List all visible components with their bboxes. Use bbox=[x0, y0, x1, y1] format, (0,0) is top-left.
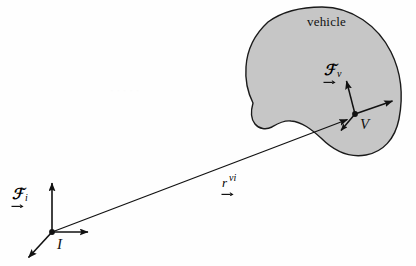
inertial-origin-dot bbox=[49, 229, 55, 235]
vehicle-caption: vehicle bbox=[307, 14, 346, 30]
inertial-origin-label: I bbox=[57, 236, 62, 253]
inertial-axis-down-left bbox=[29, 232, 53, 258]
position-vector-symbol: r vi bbox=[222, 174, 234, 195]
position-vector-r-vi bbox=[52, 120, 348, 233]
vehicle-frame-symbol: ℱ v bbox=[324, 62, 340, 83]
script-f-glyph: ℱ bbox=[12, 186, 24, 202]
under-arrow-icon bbox=[11, 202, 24, 208]
frame-symbol-core: ℱ bbox=[324, 62, 336, 83]
r-symbol-core: r bbox=[222, 174, 227, 195]
diagram-svg bbox=[0, 0, 416, 266]
under-arrow-icon bbox=[323, 78, 336, 84]
frame-symbol-core: ℱ bbox=[12, 186, 24, 207]
figure-canvas: · · · · · · · · · · vehicle I V bbox=[0, 0, 416, 266]
position-vector-superscript: vi bbox=[229, 172, 236, 183]
r-glyph: r bbox=[222, 175, 227, 190]
under-arrow-icon bbox=[221, 190, 234, 196]
script-f-glyph: ℱ bbox=[324, 62, 336, 78]
inertial-frame-symbol: ℱ i bbox=[12, 186, 27, 207]
vehicle-frame-subscript: v bbox=[337, 68, 341, 79]
vehicle-origin-dot bbox=[352, 111, 358, 117]
vehicle-origin-label: V bbox=[360, 116, 369, 133]
inertial-frame-subscript: i bbox=[25, 192, 28, 203]
